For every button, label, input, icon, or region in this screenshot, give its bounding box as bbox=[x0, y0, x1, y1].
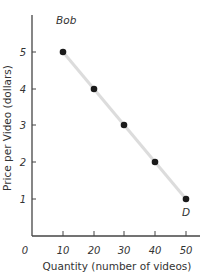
y-axis-title: Price per Video (dollars) bbox=[1, 65, 13, 191]
data-point bbox=[60, 49, 67, 56]
data-point bbox=[152, 159, 159, 166]
y-tick-label-1: 1 bbox=[20, 194, 26, 205]
data-point bbox=[121, 122, 128, 129]
y-tick-label-2: 2 bbox=[20, 157, 26, 168]
x-tick-label-10: 10 bbox=[57, 245, 70, 256]
x-ticks bbox=[63, 231, 186, 236]
demand-chart: 5 4 3 2 1 0 10 20 30 40 50 Quantity (num… bbox=[0, 0, 206, 275]
y-tick-label-3: 3 bbox=[20, 120, 26, 131]
data-point bbox=[91, 86, 98, 93]
y-tick-label-5: 5 bbox=[20, 47, 26, 58]
x-axis-title: Quantity (number of videos) bbox=[43, 260, 192, 272]
chart-label-bob: Bob bbox=[56, 14, 77, 26]
x-tick-label-30: 30 bbox=[118, 245, 131, 256]
data-point bbox=[183, 196, 190, 203]
x-tick-label-20: 20 bbox=[88, 245, 101, 256]
x-tick-label-40: 40 bbox=[149, 245, 162, 256]
x-origin-label: 0 bbox=[22, 245, 28, 256]
x-tick-label-50: 50 bbox=[180, 245, 193, 256]
demand-curve-label: D bbox=[182, 206, 190, 218]
y-tick-label-4: 4 bbox=[20, 84, 26, 95]
